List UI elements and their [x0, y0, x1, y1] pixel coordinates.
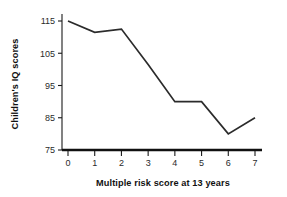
y-axis-tick-label: 75: [45, 145, 55, 155]
x-axis-tick-label: 2: [119, 158, 124, 168]
y-axis-tick-label: 95: [45, 81, 55, 91]
x-axis-title: Multiple risk score at 13 years: [96, 178, 230, 188]
x-axis-tick-label: 5: [199, 158, 204, 168]
chart-background: [0, 0, 287, 197]
x-axis-tick-label: 4: [172, 158, 177, 168]
x-axis-tick-label: 7: [252, 158, 257, 168]
x-axis-tick-label: 0: [65, 158, 70, 168]
x-axis-tick-label: 6: [226, 158, 231, 168]
y-axis-tick-label: 105: [40, 49, 55, 59]
chart-container: 758595105115 01234567 Children's IQ scor…: [0, 0, 287, 197]
y-axis-title: Children's IQ scores: [10, 39, 20, 130]
line-chart: 758595105115 01234567 Children's IQ scor…: [0, 0, 287, 197]
x-axis-tick-label: 1: [92, 158, 97, 168]
y-axis-tick-label: 115: [41, 16, 55, 26]
x-axis-tick-label: 3: [146, 158, 151, 168]
y-axis-tick-label: 85: [45, 113, 55, 123]
